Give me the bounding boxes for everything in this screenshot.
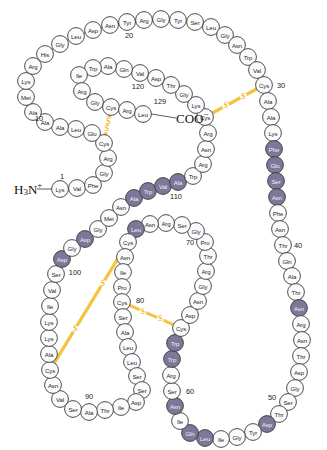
residue-19-asn[interactable]: Asn	[102, 17, 119, 34]
residue-21-arg[interactable]: Arg	[136, 12, 153, 29]
residue-122-ala[interactable]: Ala	[100, 58, 117, 75]
residue-61-arg[interactable]: Arg	[163, 367, 180, 384]
residue-93-asn[interactable]: Asn	[45, 377, 62, 394]
residue-layer: LysValPheGlyArgCysGluLeuAlaAlaAlaMetLysA…	[18, 11, 311, 448]
residue-95-ala[interactable]: Ala	[41, 346, 58, 363]
residue-56-leu[interactable]: Leu	[197, 430, 214, 447]
residue-48-asp[interactable]: Asp	[291, 364, 308, 381]
residue-98-ile[interactable]: Ile	[42, 298, 59, 315]
residue-32-ala[interactable]: Ala	[263, 109, 280, 126]
residue-128-arg[interactable]: Arg	[119, 102, 136, 119]
residue-39-asn[interactable]: Asn	[272, 221, 289, 238]
residue-31-ala[interactable]: Ala	[260, 93, 277, 110]
residue-54-gly[interactable]: Gly	[229, 429, 246, 446]
residue-79-pro[interactable]: Pro	[114, 279, 131, 296]
residue-99-val[interactable]: Val	[44, 282, 61, 299]
residue-16-gly[interactable]: Gly	[52, 36, 69, 53]
residue-68-arg[interactable]: Arg	[198, 263, 215, 280]
residue-63-trp[interactable]: Trp	[167, 335, 184, 352]
residue-33-lys[interactable]: Lys	[265, 125, 282, 142]
residue-30-cys[interactable]: Cys	[256, 77, 273, 94]
residue-66-asn[interactable]: Asn	[190, 293, 207, 310]
residue-90-ala[interactable]: Ala	[81, 404, 98, 421]
residue-41-gln[interactable]: Gln	[279, 253, 296, 270]
disulfide-sulfur-label: S	[141, 307, 146, 316]
residue-127-cys[interactable]: Cys	[103, 99, 120, 116]
residue-112-arg[interactable]: Arg	[195, 156, 212, 173]
residue-1-lys[interactable]: Lys	[52, 181, 69, 198]
residue-83-leu[interactable]: Leu	[120, 339, 137, 356]
residue-label: Ser	[177, 222, 186, 229]
residue-113-asn[interactable]: Asn	[198, 141, 215, 158]
residue-29-val[interactable]: Val	[249, 62, 266, 79]
residue-label: Pro	[200, 239, 210, 246]
residue-4-gly[interactable]: Gly	[96, 165, 113, 182]
residue-15-his[interactable]: His	[37, 46, 54, 63]
residue-2-val[interactable]: Val	[69, 180, 86, 197]
residue-40-thr[interactable]: Thr	[275, 237, 292, 254]
residue-44-asn[interactable]: Asn	[291, 300, 308, 317]
residue-124-ile[interactable]: Ile	[71, 67, 88, 84]
residue-12-met[interactable]: Met	[18, 89, 35, 106]
residue-label: Ile	[118, 404, 125, 411]
residue-77-asn[interactable]: Asn	[117, 249, 134, 266]
residue-36-ser[interactable]: Ser	[268, 173, 285, 190]
residue-label: Cys	[106, 104, 116, 111]
residue-97-lys[interactable]: Lys	[41, 314, 58, 331]
residue-9-ala[interactable]: Ala	[52, 119, 69, 136]
residue-72-ser[interactable]: Ser	[174, 217, 191, 234]
residue-23-tyr[interactable]: Tyr	[170, 12, 187, 29]
residue-89-thr[interactable]: Thr	[97, 402, 114, 419]
residue-129-leu[interactable]: Leu	[135, 106, 152, 123]
residue-22-gly[interactable]: Gly	[153, 11, 170, 28]
residue-118-thr[interactable]: Thr	[163, 77, 180, 94]
residue-17-leu[interactable]: Leu	[68, 28, 85, 45]
residue-35-glu[interactable]: Glu	[267, 157, 284, 174]
residue-label: Thr	[204, 253, 213, 260]
residue-82-ala[interactable]: Ala	[117, 324, 134, 341]
residue-88-ile[interactable]: Ile	[113, 399, 130, 416]
residue-55-ile[interactable]: Ile	[213, 431, 230, 448]
residue-100-ser[interactable]: Ser	[48, 266, 65, 283]
residue-58-ile[interactable]: Ile	[172, 413, 189, 430]
residue-119-asp[interactable]: Asp	[148, 70, 165, 87]
residue-42-ala[interactable]: Ala	[284, 268, 301, 285]
position-number-90: 90	[85, 392, 93, 401]
residue-120-val[interactable]: Val	[132, 65, 149, 82]
residue-108-trp[interactable]: Trp	[140, 183, 157, 200]
residue-46-asn[interactable]: Asn	[294, 332, 311, 349]
residue-8-leu[interactable]: Leu	[68, 121, 85, 138]
residue-43-thr[interactable]: Thr	[288, 284, 305, 301]
residue-38-phe[interactable]: Phe	[270, 205, 287, 222]
residue-109-val[interactable]: Val	[155, 178, 172, 195]
residue-110-ala[interactable]: Ala	[170, 174, 187, 191]
residue-126-gly[interactable]: Gly	[87, 94, 104, 111]
residue-5-arg[interactable]: Arg	[100, 150, 117, 167]
residue-7-glu[interactable]: Glu	[84, 125, 101, 142]
residue-18-asp[interactable]: Asp	[85, 22, 102, 39]
residue-80-cys[interactable]: Cys	[114, 294, 131, 311]
residue-96-lys[interactable]: Lys	[41, 330, 58, 347]
residue-60-ser[interactable]: Ser	[164, 383, 181, 400]
residue-53-tyr[interactable]: Tyr	[245, 424, 262, 441]
residue-13-lys[interactable]: Lys	[18, 73, 35, 90]
residue-121-gln[interactable]: Gln	[116, 61, 133, 78]
residue-59-asn[interactable]: Asn	[167, 398, 184, 415]
residue-67-gly[interactable]: Gly	[195, 278, 212, 295]
residue-34-phe[interactable]: Phe	[266, 141, 283, 158]
residue-76-cys[interactable]: Cys	[120, 234, 137, 251]
residue-label: Arg	[103, 155, 112, 162]
residue-37-asn[interactable]: Asn	[269, 189, 286, 206]
residue-73-arg[interactable]: Arg	[158, 215, 175, 232]
residue-114-arg[interactable]: Arg	[200, 125, 217, 142]
residue-94-cys[interactable]: Cys	[42, 362, 59, 379]
residue-45-arg[interactable]: Arg	[293, 316, 310, 333]
residue-78-ile[interactable]: Ile	[115, 264, 132, 281]
residue-87-asp[interactable]: Asp	[128, 394, 145, 411]
residue-24-ser[interactable]: Ser	[187, 14, 204, 31]
residue-20-tyr[interactable]: Tyr	[119, 14, 136, 31]
residue-62-trp[interactable]: Trp	[164, 351, 181, 368]
residue-81-ser[interactable]: Ser	[115, 309, 132, 326]
residue-label: Arg	[139, 17, 148, 24]
residue-47-thr[interactable]: Thr	[293, 348, 310, 365]
